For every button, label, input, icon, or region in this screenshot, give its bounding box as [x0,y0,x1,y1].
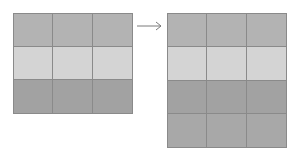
grid-cell [14,47,53,80]
grid-cell [168,114,207,147]
grid-cell [247,47,286,80]
grid-cell [14,14,53,47]
grid-cell [53,47,92,80]
grid-cell [14,80,53,113]
arrow-right-icon [137,21,163,31]
grid-cell [53,14,92,47]
grid-cell [93,80,132,113]
result-grid [167,13,287,148]
grid-cell [207,81,246,114]
grid-cell [247,81,286,114]
grid-cell [207,114,246,147]
grid-cell [93,14,132,47]
grid-cell [207,47,246,80]
grid-cell [168,47,207,80]
source-grid [13,13,133,114]
grid-cell [53,80,92,113]
grid-cell [247,114,286,147]
grid-cell [247,14,286,47]
grid-cell [168,14,207,47]
grid-cell [93,47,132,80]
grid-cell [207,14,246,47]
grid-cell [168,81,207,114]
